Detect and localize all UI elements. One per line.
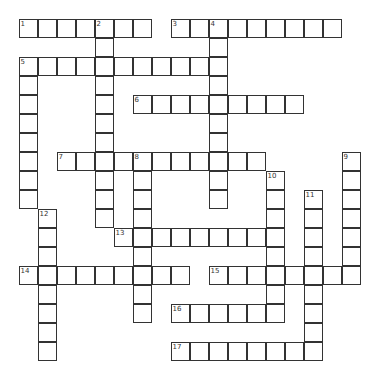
crossword-cell[interactable] bbox=[228, 304, 247, 323]
crossword-cell[interactable] bbox=[266, 190, 285, 209]
crossword-cell[interactable] bbox=[114, 152, 133, 171]
crossword-cell[interactable]: 16 bbox=[171, 304, 190, 323]
crossword-cell[interactable] bbox=[152, 266, 171, 285]
crossword-cell[interactable] bbox=[133, 266, 152, 285]
crossword-cell[interactable] bbox=[266, 209, 285, 228]
crossword-cell[interactable] bbox=[171, 228, 190, 247]
crossword-cell[interactable] bbox=[342, 171, 361, 190]
crossword-cell[interactable] bbox=[38, 57, 57, 76]
crossword-cell[interactable]: 13 bbox=[114, 228, 133, 247]
crossword-cell[interactable] bbox=[133, 209, 152, 228]
crossword-cell[interactable] bbox=[247, 304, 266, 323]
crossword-cell[interactable] bbox=[19, 114, 38, 133]
crossword-cell[interactable] bbox=[285, 95, 304, 114]
crossword-cell[interactable]: 10 bbox=[266, 171, 285, 190]
crossword-cell[interactable] bbox=[266, 95, 285, 114]
crossword-cell[interactable]: 9 bbox=[342, 152, 361, 171]
crossword-cell[interactable] bbox=[171, 57, 190, 76]
crossword-cell[interactable] bbox=[76, 19, 95, 38]
crossword-cell[interactable] bbox=[95, 76, 114, 95]
crossword-cell[interactable] bbox=[304, 266, 323, 285]
crossword-cell[interactable] bbox=[95, 209, 114, 228]
crossword-cell[interactable] bbox=[171, 152, 190, 171]
crossword-cell[interactable] bbox=[304, 19, 323, 38]
crossword-cell[interactable] bbox=[209, 171, 228, 190]
crossword-cell[interactable] bbox=[190, 228, 209, 247]
crossword-cell[interactable] bbox=[304, 228, 323, 247]
crossword-cell[interactable] bbox=[304, 304, 323, 323]
crossword-cell[interactable] bbox=[19, 95, 38, 114]
crossword-cell[interactable] bbox=[76, 57, 95, 76]
crossword-cell[interactable] bbox=[304, 285, 323, 304]
crossword-cell[interactable] bbox=[304, 209, 323, 228]
crossword-cell[interactable] bbox=[38, 285, 57, 304]
crossword-cell[interactable] bbox=[57, 19, 76, 38]
crossword-cell[interactable] bbox=[19, 133, 38, 152]
crossword-cell[interactable]: 17 bbox=[171, 342, 190, 361]
crossword-cell[interactable]: 2 bbox=[95, 19, 114, 38]
crossword-cell[interactable] bbox=[190, 342, 209, 361]
crossword-cell[interactable]: 14 bbox=[19, 266, 38, 285]
crossword-cell[interactable] bbox=[209, 76, 228, 95]
crossword-cell[interactable] bbox=[228, 228, 247, 247]
crossword-cell[interactable] bbox=[95, 95, 114, 114]
crossword-cell[interactable]: 1 bbox=[19, 19, 38, 38]
crossword-cell[interactable] bbox=[247, 266, 266, 285]
crossword-cell[interactable] bbox=[95, 190, 114, 209]
crossword-cell[interactable] bbox=[57, 57, 76, 76]
crossword-cell[interactable] bbox=[95, 114, 114, 133]
crossword-cell[interactable] bbox=[266, 342, 285, 361]
crossword-cell[interactable] bbox=[152, 228, 171, 247]
crossword-cell[interactable] bbox=[76, 152, 95, 171]
crossword-cell[interactable]: 3 bbox=[171, 19, 190, 38]
crossword-cell[interactable] bbox=[323, 266, 342, 285]
crossword-cell[interactable] bbox=[247, 342, 266, 361]
crossword-cell[interactable]: 7 bbox=[57, 152, 76, 171]
crossword-cell[interactable] bbox=[209, 190, 228, 209]
crossword-cell[interactable] bbox=[38, 323, 57, 342]
crossword-cell[interactable] bbox=[266, 266, 285, 285]
crossword-cell[interactable] bbox=[171, 95, 190, 114]
crossword-cell[interactable] bbox=[209, 114, 228, 133]
crossword-cell[interactable] bbox=[304, 323, 323, 342]
crossword-cell[interactable] bbox=[95, 133, 114, 152]
crossword-cell[interactable] bbox=[209, 38, 228, 57]
crossword-cell[interactable] bbox=[190, 57, 209, 76]
crossword-cell[interactable] bbox=[133, 190, 152, 209]
crossword-cell[interactable] bbox=[285, 19, 304, 38]
crossword-cell[interactable]: 11 bbox=[304, 190, 323, 209]
crossword-cell[interactable] bbox=[247, 95, 266, 114]
crossword-cell[interactable] bbox=[190, 95, 209, 114]
crossword-cell[interactable] bbox=[114, 266, 133, 285]
crossword-cell[interactable] bbox=[133, 304, 152, 323]
crossword-cell[interactable] bbox=[95, 266, 114, 285]
crossword-cell[interactable] bbox=[133, 171, 152, 190]
crossword-cell[interactable] bbox=[133, 285, 152, 304]
crossword-cell[interactable] bbox=[114, 19, 133, 38]
crossword-cell[interactable] bbox=[228, 95, 247, 114]
crossword-cell[interactable] bbox=[209, 228, 228, 247]
crossword-cell[interactable] bbox=[57, 266, 76, 285]
crossword-cell[interactable] bbox=[38, 247, 57, 266]
crossword-cell[interactable] bbox=[95, 38, 114, 57]
crossword-cell[interactable] bbox=[342, 190, 361, 209]
crossword-cell[interactable] bbox=[95, 171, 114, 190]
crossword-cell[interactable]: 12 bbox=[38, 209, 57, 228]
crossword-cell[interactable] bbox=[19, 190, 38, 209]
crossword-cell[interactable] bbox=[304, 342, 323, 361]
crossword-cell[interactable] bbox=[266, 285, 285, 304]
crossword-cell[interactable] bbox=[133, 228, 152, 247]
crossword-cell[interactable] bbox=[342, 266, 361, 285]
crossword-cell[interactable] bbox=[38, 342, 57, 361]
crossword-cell[interactable] bbox=[228, 342, 247, 361]
crossword-cell[interactable] bbox=[266, 247, 285, 266]
crossword-cell[interactable] bbox=[38, 304, 57, 323]
crossword-cell[interactable] bbox=[133, 19, 152, 38]
crossword-cell[interactable] bbox=[228, 152, 247, 171]
crossword-cell[interactable] bbox=[209, 95, 228, 114]
crossword-cell[interactable] bbox=[19, 152, 38, 171]
crossword-cell[interactable] bbox=[19, 171, 38, 190]
crossword-cell[interactable]: 8 bbox=[133, 152, 152, 171]
crossword-cell[interactable] bbox=[38, 19, 57, 38]
crossword-cell[interactable] bbox=[285, 342, 304, 361]
